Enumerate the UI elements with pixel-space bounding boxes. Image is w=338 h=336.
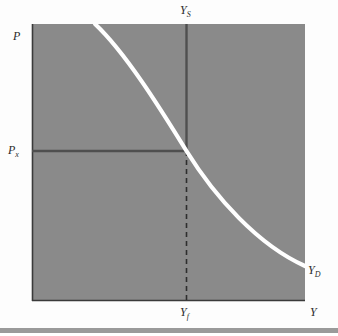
aggregate-demand-subscript: D — [315, 270, 321, 279]
full-employment-output-label: Yf — [180, 306, 189, 321]
economics-figure: P Px YS YD Yf Y — [0, 0, 338, 336]
aggregate-supply-subscript: S — [187, 10, 191, 19]
equilibrium-price-subscript: x — [15, 150, 19, 159]
y-axis-label: P — [13, 30, 20, 42]
x-axis-label: Y — [310, 306, 317, 318]
equilibrium-price-label: Px — [8, 144, 19, 159]
aggregate-demand-curve — [95, 24, 305, 266]
full-employment-output-subscript: f — [187, 312, 189, 321]
plot-graphics — [0, 0, 338, 336]
aggregate-demand-label: YD — [308, 264, 320, 279]
aggregate-supply-label: YS — [180, 4, 191, 19]
